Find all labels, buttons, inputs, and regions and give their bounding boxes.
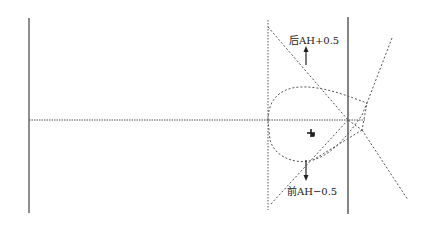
lower-label: 前AH−0.5 [287, 183, 337, 198]
right-lower-diagonal [362, 130, 408, 200]
diagram-canvas [0, 0, 432, 226]
down-arrow-icon [304, 175, 309, 181]
pear-shaped-curve [268, 87, 367, 162]
right-polygon-segments [348, 38, 392, 130]
center-marker-icon [307, 129, 315, 137]
inner-lower-segment [313, 130, 362, 160]
upper-label: 后AH+0.5 [289, 32, 339, 47]
